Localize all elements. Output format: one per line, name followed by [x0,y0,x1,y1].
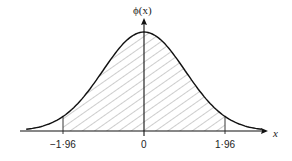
tick-label-zero: 0 [141,139,147,150]
tick-label-pos: 1·96 [215,139,235,150]
plot-area [20,18,268,136]
x-axis-label: x [273,127,278,139]
tick-label-neg: −1·96 [50,139,76,150]
x-axis-arrow-icon [261,128,268,134]
y-axis-arrow-icon [141,18,147,25]
normal-curve-plot [0,0,292,161]
y-axis-label: ϕ(x) [133,4,152,16]
